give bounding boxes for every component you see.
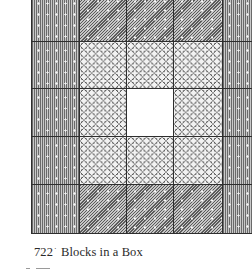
block-vertical-stripe [31, 0, 80, 42]
block-diagonal-stripe [173, 0, 223, 42]
block-interlocking-rings [79, 88, 127, 137]
block-vertical-stripe [222, 136, 252, 185]
block-vertical-stripe [31, 136, 80, 185]
block-interlocking-rings [79, 136, 127, 185]
figure-caption: 722· Blocks in a Box [34, 244, 143, 260]
block-vertical-stripe [31, 41, 80, 89]
caption-title: Blocks in a Box [61, 245, 143, 259]
block-diagonal-stripe [173, 184, 223, 234]
block-interlocking-rings [126, 136, 174, 185]
block-vertical-stripe [222, 88, 252, 137]
block-interlocking-rings [79, 41, 127, 89]
block-diagonal-stripe [79, 0, 127, 42]
block-diagonal-stripe [126, 0, 174, 42]
block-diagonal-stripe [126, 184, 174, 234]
block-interlocking-rings [126, 41, 174, 89]
block-vertical-stripe [222, 41, 252, 89]
block-vertical-stripe [222, 184, 252, 234]
block-vertical-stripe [222, 0, 252, 42]
quilt-block-diagram [31, 0, 252, 234]
block-vertical-stripe [31, 184, 80, 234]
block-interlocking-rings [173, 88, 223, 137]
block-vertical-stripe [31, 88, 80, 137]
block-interlocking-rings [173, 136, 223, 185]
block-interlocking-rings [173, 41, 223, 89]
block-plain-white-center [126, 88, 174, 137]
block-diagonal-stripe [79, 184, 127, 234]
cropped-next-line-fragment [26, 266, 66, 272]
caption-separator: · [54, 244, 57, 253]
caption-number: 722 [34, 245, 53, 259]
